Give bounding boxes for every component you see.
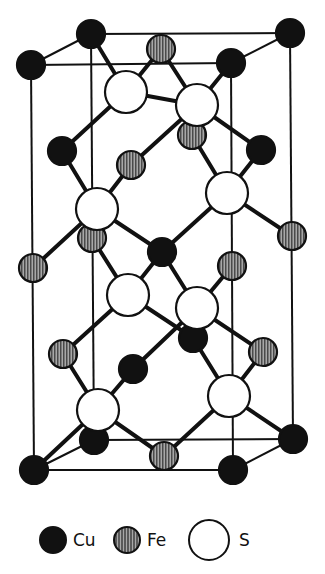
cu-atom (148, 238, 176, 266)
legend-label-fe: Fe (147, 530, 166, 550)
fe-atom (19, 254, 47, 282)
s-atom (208, 375, 250, 417)
fe-atom (249, 338, 277, 366)
cu-atom (247, 136, 275, 164)
cu-atom (48, 137, 76, 165)
s-atom (107, 274, 149, 316)
cu-atom (17, 51, 45, 79)
s-atom (77, 389, 119, 431)
cell-edge (91, 33, 290, 34)
fe-atom (147, 35, 175, 63)
s-atom (76, 188, 118, 230)
legend-label-s: S (239, 530, 250, 550)
legend-item-fe: Fe (113, 526, 166, 554)
crystal-structure-diagram (0, 0, 325, 510)
s-atom (176, 84, 218, 126)
fe-atom (218, 252, 246, 280)
s-atom (105, 71, 147, 113)
cu-atom (119, 355, 147, 383)
cu-atom (20, 456, 48, 484)
cell-edge (94, 439, 293, 440)
atoms (17, 19, 307, 484)
fe-atom (117, 151, 145, 179)
legend-item-s: S (188, 519, 250, 561)
s-atom-icon (188, 519, 230, 561)
cu-atom (279, 425, 307, 453)
legend-item-cu: Cu (39, 526, 96, 554)
cu-atom (276, 19, 304, 47)
fe-atom (49, 340, 77, 368)
fe-atom-icon (113, 526, 141, 554)
s-atom (206, 172, 248, 214)
s-atom (176, 287, 218, 329)
cu-atom (77, 20, 105, 48)
legend: Cu Fe S (0, 515, 325, 565)
cu-atom-icon (39, 526, 67, 554)
fe-atom (150, 442, 178, 470)
cell-edge (31, 63, 231, 65)
cu-atom (219, 456, 247, 484)
legend-label-cu: Cu (73, 530, 96, 550)
fe-atom (278, 222, 306, 250)
cu-atom (217, 49, 245, 77)
